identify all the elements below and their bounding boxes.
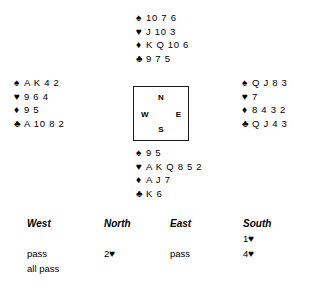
auction-bid-west-2: all pass [27,261,59,276]
spade-icon: ♠ [136,11,146,25]
east-diamonds-row: ♦8 4 3 2 [242,103,288,117]
heart-icon: ♥ [242,90,252,104]
compass-label-east: E [176,109,181,118]
west-diamonds-cards: 9 5 [24,103,39,117]
west-hearts-cards: 9 6 4 [24,90,49,104]
north-diamonds-cards: K Q 10 6 [146,38,189,52]
spade-icon: ♠ [242,76,252,90]
diamond-icon: ♦ [14,103,24,117]
east-hearts-cards: 7 [252,90,258,104]
auction-header-south: South [243,216,271,231]
auction-row: pass 2♥ pass 4♥ [27,246,295,261]
west-clubs-row: ♣A 10 8 2 [14,117,64,131]
auction-table: West North East South 1♥ pass 2♥ pass 4♥… [27,216,295,276]
spade-icon: ♠ [136,146,146,160]
north-hearts-cards: J 10 3 [146,25,176,39]
auction-row: all pass [27,261,295,276]
west-hearts-row: ♥9 6 4 [14,90,64,104]
hand-west: ♠A K 4 2 ♥9 6 4 ♦9 5 ♣A 10 8 2 [14,76,64,130]
auction-bid-east-1: pass [170,246,190,261]
auction-header-east: East [170,216,191,231]
compass-label-west: W [141,109,149,118]
hand-east: ♠Q J 8 3 ♥7 ♦8 4 3 2 ♣Q J 4 3 [242,76,288,130]
hand-south: ♠9 5 ♥A K Q 8 5 2 ♦A J 7 ♣K 6 [136,146,202,200]
north-spades-cards: 10 7 6 [146,11,177,25]
auction-header-north: North [104,216,131,231]
heart-icon: ♥ [248,233,254,244]
compass-box: N W E S [133,86,189,141]
north-clubs-cards: 9 7 5 [146,52,171,66]
east-diamonds-cards: 8 4 3 2 [252,103,286,117]
spade-icon: ♠ [14,76,24,90]
west-spades-row: ♠A K 4 2 [14,76,64,90]
north-hearts-row: ♥J 10 3 [136,25,189,39]
east-hearts-row: ♥7 [242,90,288,104]
heart-icon: ♥ [248,248,254,259]
heart-icon: ♥ [109,248,115,259]
south-spades-cards: 9 5 [146,146,161,160]
north-diamonds-row: ♦K Q 10 6 [136,38,189,52]
auction-header-west: West [27,216,51,231]
west-diamonds-row: ♦9 5 [14,103,64,117]
heart-icon: ♥ [14,90,24,104]
compass-label-south: S [158,125,163,134]
heart-icon: ♥ [136,160,146,174]
south-diamonds-row: ♦A J 7 [136,173,202,187]
south-spades-row: ♠9 5 [136,146,202,160]
auction-bid-west-1: pass [27,246,47,261]
auction-header-row: West North East South [27,216,295,231]
south-clubs-row: ♣K 6 [136,187,202,201]
heart-icon: ♥ [136,25,146,39]
auction-bid-south-1: 1♥ [243,231,254,246]
west-clubs-cards: A 10 8 2 [24,117,64,131]
diamond-icon: ♦ [136,38,146,52]
east-clubs-row: ♣Q J 4 3 [242,117,288,131]
auction-bid-south-2: 4♥ [243,246,254,261]
club-icon: ♣ [242,117,252,131]
club-icon: ♣ [136,52,146,66]
south-hearts-cards: A K Q 8 5 2 [146,160,202,174]
auction-row: 1♥ [27,231,295,246]
diamond-icon: ♦ [136,173,146,187]
club-icon: ♣ [14,117,24,131]
east-spades-cards: Q J 8 3 [252,76,288,90]
south-hearts-row: ♥A K Q 8 5 2 [136,160,202,174]
auction-bid-north-1: 2♥ [104,246,115,261]
south-clubs-cards: K 6 [146,187,162,201]
north-spades-row: ♠10 7 6 [136,11,189,25]
east-spades-row: ♠Q J 8 3 [242,76,288,90]
compass-label-north: N [158,93,164,102]
hand-north: ♠10 7 6 ♥J 10 3 ♦K Q 10 6 ♣9 7 5 [136,11,189,65]
south-diamonds-cards: A J 7 [146,173,171,187]
north-clubs-row: ♣9 7 5 [136,52,189,66]
west-spades-cards: A K 4 2 [24,76,60,90]
east-clubs-cards: Q J 4 3 [252,117,288,131]
diamond-icon: ♦ [242,103,252,117]
club-icon: ♣ [136,187,146,201]
